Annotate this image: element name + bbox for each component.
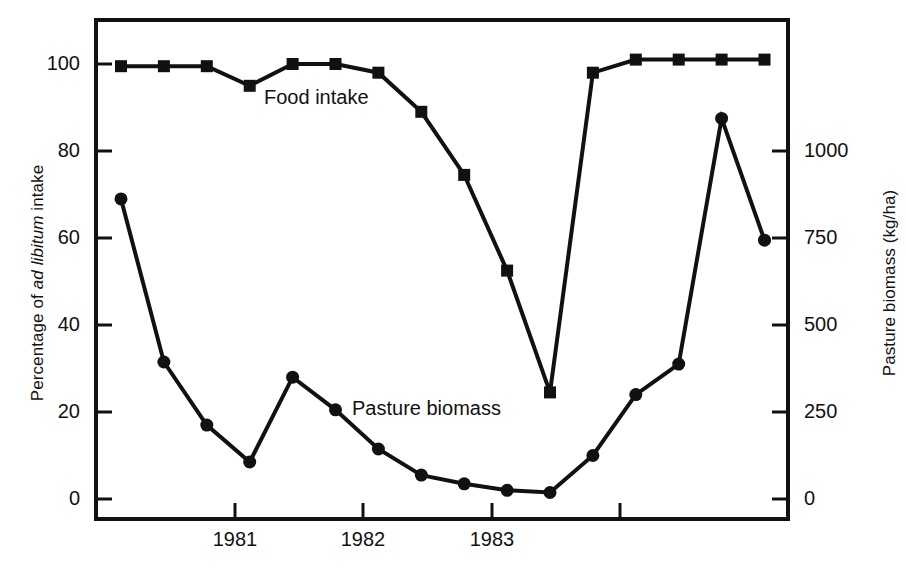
data-point <box>629 388 642 401</box>
data-point <box>201 60 213 72</box>
data-point <box>716 54 728 66</box>
series-pasture-biomass <box>115 112 772 499</box>
data-point <box>372 443 385 456</box>
data-point <box>115 192 128 205</box>
data-point <box>587 67 599 79</box>
data-point <box>544 386 556 398</box>
data-point <box>458 169 470 181</box>
data-point <box>630 54 642 66</box>
data-point <box>715 112 728 125</box>
data-point <box>372 67 384 79</box>
data-point <box>244 80 256 92</box>
data-point <box>330 58 342 70</box>
data-point <box>200 419 213 432</box>
data-point <box>243 456 256 469</box>
series-layer <box>115 54 772 499</box>
data-point <box>157 356 170 369</box>
series-food-intake <box>115 54 771 399</box>
left-axis-ticks <box>96 64 112 499</box>
series-line <box>121 60 765 393</box>
data-point <box>329 403 342 416</box>
data-point <box>115 60 127 72</box>
series-line <box>121 118 765 492</box>
data-point <box>415 469 428 482</box>
data-point <box>544 486 557 499</box>
plot-canvas <box>0 0 906 573</box>
plot-frame <box>96 20 788 519</box>
data-point <box>286 371 299 384</box>
chart-figure: Percentage of ad libitum intake Pasture … <box>0 0 906 573</box>
data-point <box>586 449 599 462</box>
data-point <box>672 358 685 371</box>
data-point <box>501 484 514 497</box>
x-axis-ticks <box>235 503 620 519</box>
data-point <box>759 54 771 66</box>
data-point <box>458 477 471 490</box>
data-point <box>758 234 771 247</box>
data-point <box>158 60 170 72</box>
data-point <box>501 265 513 277</box>
data-point <box>287 58 299 70</box>
right-axis-ticks <box>772 151 788 499</box>
data-point <box>415 106 427 118</box>
data-point <box>673 54 685 66</box>
